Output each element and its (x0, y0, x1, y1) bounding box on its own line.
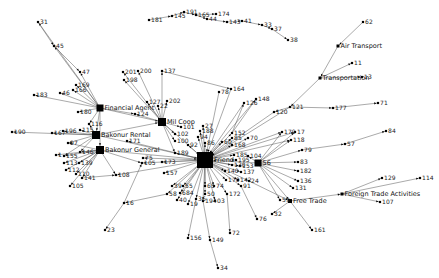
graph-node[interactable] (206, 18, 208, 20)
graph-node[interactable] (271, 28, 273, 30)
graph-node[interactable] (217, 267, 219, 269)
graph-node[interactable] (344, 143, 346, 145)
graph-node[interactable] (297, 161, 299, 163)
graph-node[interactable] (231, 132, 233, 134)
graph-node[interactable] (209, 239, 211, 241)
graph-node[interactable] (37, 21, 39, 23)
graph-node[interactable] (72, 89, 74, 91)
hub-node[interactable] (158, 118, 166, 126)
graph-node[interactable] (182, 185, 184, 187)
graph-node[interactable] (180, 126, 182, 128)
graph-node[interactable] (297, 180, 299, 182)
graph-node[interactable] (231, 164, 233, 166)
graph-node[interactable] (225, 179, 227, 181)
graph-node[interactable] (174, 133, 176, 135)
graph-node[interactable] (122, 71, 124, 73)
graph-node[interactable] (241, 20, 243, 22)
graph-node[interactable] (187, 237, 189, 239)
graph-node[interactable] (297, 170, 299, 172)
graph-node[interactable] (63, 162, 65, 164)
graph-node[interactable] (174, 152, 176, 154)
graph-node[interactable] (79, 151, 81, 153)
graph-node[interactable] (59, 92, 61, 94)
graph-node[interactable] (256, 218, 258, 220)
graph-node[interactable] (115, 174, 117, 176)
graph-node[interactable] (146, 101, 148, 103)
graph-node[interactable] (141, 162, 143, 164)
graph-node[interactable] (148, 19, 150, 21)
hub-node[interactable] (341, 193, 344, 196)
hub-node[interactable] (96, 146, 104, 154)
graph-node[interactable] (311, 229, 313, 231)
graph-node[interactable] (301, 149, 303, 151)
hub-node[interactable] (319, 77, 322, 80)
graph-node[interactable] (292, 187, 294, 189)
graph-node[interactable] (187, 203, 189, 205)
graph-node[interactable] (176, 199, 178, 201)
graph-node[interactable] (161, 161, 163, 163)
graph-node[interactable] (33, 94, 35, 96)
graph-node[interactable] (247, 137, 249, 139)
graph-node[interactable] (197, 136, 199, 138)
graph-node[interactable] (69, 185, 71, 187)
graph-node[interactable] (67, 142, 69, 144)
graph-node[interactable] (385, 130, 387, 132)
graph-node[interactable] (166, 193, 168, 195)
graph-node[interactable] (53, 45, 55, 47)
graph-node[interactable] (171, 185, 173, 187)
hub-node[interactable] (255, 160, 262, 167)
graph-node[interactable] (281, 131, 283, 133)
graph-node[interactable] (161, 70, 163, 72)
graph-node[interactable] (204, 185, 206, 187)
hub-node[interactable] (337, 45, 340, 48)
graph-node[interactable] (179, 192, 181, 194)
graph-node[interactable] (221, 141, 223, 143)
graph-node[interactable] (104, 229, 106, 231)
graph-node[interactable] (51, 132, 53, 134)
graph-node[interactable] (79, 71, 81, 73)
graph-node[interactable] (226, 21, 228, 23)
graph-node[interactable] (157, 105, 159, 107)
graph-node[interactable] (271, 213, 273, 215)
graph-node[interactable] (419, 177, 421, 179)
graph-node[interactable] (126, 140, 128, 142)
graph-node[interactable] (81, 177, 83, 179)
graph-node[interactable] (240, 171, 242, 173)
graph-node[interactable] (290, 139, 292, 141)
graph-node[interactable] (204, 142, 206, 144)
graph-node[interactable] (123, 79, 125, 81)
graph-node[interactable] (379, 201, 381, 203)
graph-node[interactable] (218, 91, 220, 93)
graph-node[interactable] (65, 169, 67, 171)
hub-node[interactable] (97, 105, 104, 112)
graph-node[interactable] (240, 185, 242, 187)
graph-node[interactable] (377, 102, 379, 104)
graph-node[interactable] (63, 155, 65, 157)
graph-node[interactable] (243, 102, 245, 104)
graph-node[interactable] (79, 129, 81, 131)
graph-node[interactable] (55, 154, 57, 156)
graph-node[interactable] (362, 21, 364, 23)
graph-node[interactable] (261, 24, 263, 26)
graph-node[interactable] (77, 111, 79, 113)
graph-node[interactable] (332, 107, 334, 109)
graph-node[interactable] (187, 144, 189, 146)
graph-node[interactable] (351, 62, 353, 64)
graph-node[interactable] (88, 123, 90, 125)
graph-node[interactable] (137, 70, 139, 72)
graph-node[interactable] (229, 232, 231, 234)
graph-node[interactable] (226, 193, 228, 195)
graph-node[interactable] (289, 106, 291, 108)
graph-node[interactable] (273, 111, 275, 113)
graph-node[interactable] (163, 172, 165, 174)
graph-node[interactable] (78, 162, 80, 164)
graph-node[interactable] (287, 39, 289, 41)
graph-node[interactable] (134, 113, 136, 115)
hub-node[interactable] (197, 152, 213, 168)
graph-node[interactable] (123, 202, 125, 204)
graph-node[interactable] (224, 170, 226, 172)
graph-node[interactable] (199, 130, 201, 132)
graph-node[interactable] (171, 15, 173, 17)
graph-node[interactable] (11, 131, 13, 133)
graph-node[interactable] (75, 173, 77, 175)
